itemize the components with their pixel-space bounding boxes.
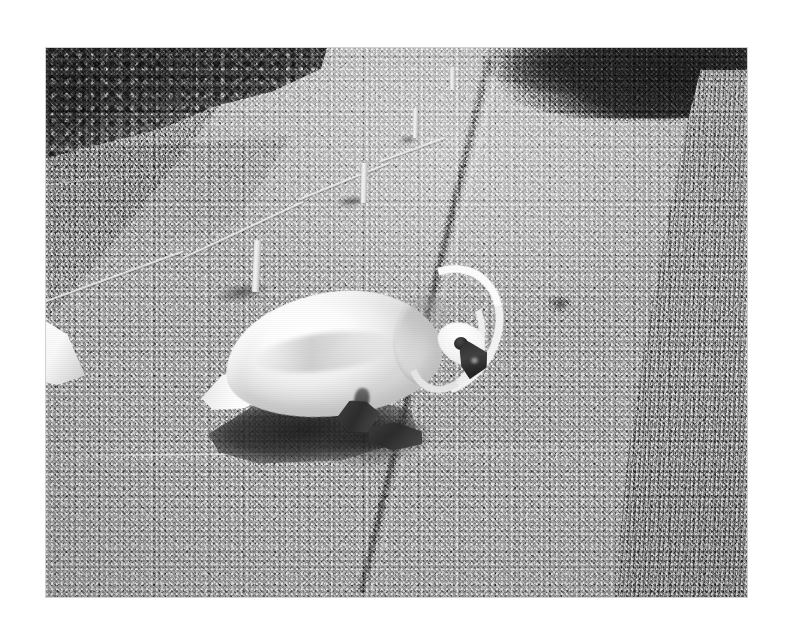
photo-scene [46, 48, 747, 597]
photograph [46, 48, 747, 597]
page [0, 0, 792, 644]
swan-beak-highlight [469, 357, 480, 364]
swan [46, 48, 747, 597]
